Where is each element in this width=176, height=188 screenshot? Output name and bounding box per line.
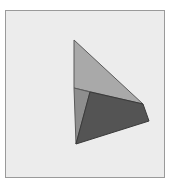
polyhedron-figure [0, 0, 176, 188]
